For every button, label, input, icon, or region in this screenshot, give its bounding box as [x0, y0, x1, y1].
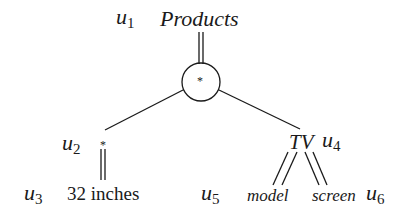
node-label-tv: TV: [289, 130, 314, 155]
var-u4: u4: [322, 127, 341, 155]
edge-u4-u5-b: [282, 152, 297, 185]
edge-center-u2: [105, 90, 183, 130]
circle-star-label: *: [197, 74, 203, 89]
edge-u4-u6-a: [305, 152, 319, 185]
edge-center-u4: [219, 90, 300, 129]
var-u3: u3: [24, 180, 43, 208]
var-u1: u1: [116, 4, 135, 32]
node-label-32-inches: 32 inches: [67, 183, 139, 205]
var-u5: u5: [201, 180, 220, 208]
node-label-model: model: [247, 186, 289, 206]
var-u6: u6: [366, 180, 385, 208]
node-label-screen: screen: [312, 186, 356, 206]
node-label-star: *: [100, 138, 106, 153]
node-label-products: Products: [160, 6, 239, 32]
edge-u4-u6-b: [313, 152, 327, 185]
var-u2: u2: [62, 130, 81, 158]
edge-u4-u5-a: [273, 152, 288, 185]
